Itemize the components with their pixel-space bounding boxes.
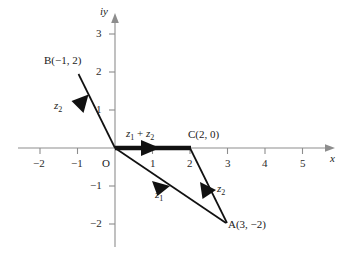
y-axis-label: iy	[100, 6, 108, 17]
y-tick-label--1: −1	[90, 180, 102, 191]
y-tick-label-2: 2	[96, 66, 102, 77]
vector-label-resultant: z1 + z2	[126, 128, 154, 142]
point-label-a: A(3, −2)	[228, 219, 266, 230]
x-axis-arrowhead	[325, 144, 335, 152]
vector-label-resultant-plus: +	[134, 127, 146, 139]
origin-label: O	[102, 158, 110, 169]
argand-diagram-figure: −2 −1 1 2 3 4 5 3 2 1 −1 −2 iy x O B(−1,…	[0, 0, 346, 258]
point-label-b: B(−1, 2)	[44, 55, 81, 66]
diagram-canvas	[0, 0, 346, 258]
y-axis-arrowhead	[111, 13, 119, 23]
x-tick-label-5: 5	[300, 158, 306, 169]
y-tick-marks	[109, 34, 115, 224]
x-tick-label-4: 4	[262, 158, 268, 169]
point-label-c: C(2, 0)	[188, 129, 219, 140]
x-tick-label--2: −2	[33, 158, 45, 169]
x-tick-label-2: 2	[187, 158, 193, 169]
vector-label-z1-origin-sub: 1	[159, 194, 163, 203]
vector-label-z2-origin: z2	[54, 100, 62, 114]
vector-label-resultant-z2-sub: 2	[150, 133, 154, 142]
x-axis-label: x	[330, 153, 335, 164]
x-tick-label--1: −1	[71, 158, 83, 169]
y-tick-label--2: −2	[90, 218, 102, 229]
x-tick-label-3: 3	[225, 158, 231, 169]
vector-z2-origin-arrowhead	[72, 95, 89, 114]
vector-label-z2-from-c: z2	[217, 183, 225, 197]
vector-label-z2-from-c-sub: 2	[221, 188, 225, 197]
y-tick-label-1: 1	[96, 104, 102, 115]
y-tick-label-3: 3	[96, 28, 102, 39]
x-tick-label-1: 1	[150, 158, 156, 169]
vector-resultant-arrowhead	[141, 140, 160, 156]
axes-group	[18, 13, 335, 247]
vector-label-z1-origin: z1	[155, 189, 163, 203]
vector-label-z2-origin-sub: 2	[58, 105, 62, 114]
